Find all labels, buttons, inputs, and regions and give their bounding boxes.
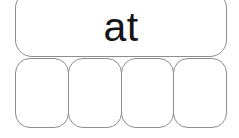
word-prompt-box: at xyxy=(15,0,227,57)
spelling-worksheet: at xyxy=(0,0,239,138)
letter-answer-box-3[interactable] xyxy=(121,58,175,128)
letter-answer-box-1[interactable] xyxy=(15,58,69,128)
word-prompt-text: at xyxy=(103,7,138,48)
letter-answer-box-2[interactable] xyxy=(68,58,122,128)
letter-answer-box-4[interactable] xyxy=(173,58,227,128)
letter-answer-row xyxy=(15,58,227,128)
